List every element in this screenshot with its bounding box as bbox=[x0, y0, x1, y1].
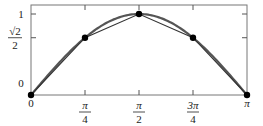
x-tick-label-numerator: π bbox=[82, 99, 88, 111]
x-tick-label: 0 bbox=[28, 97, 34, 109]
series-line-chord bbox=[31, 14, 247, 95]
y-tick-label: 0 bbox=[18, 77, 24, 89]
markers bbox=[28, 11, 250, 98]
x-tick-label-numerator: π bbox=[136, 99, 142, 111]
x-tick-label-numerator: 3π bbox=[186, 99, 199, 111]
x-tick-label: π bbox=[244, 97, 250, 109]
y-tick-label-denominator: 2 bbox=[12, 39, 18, 51]
y-tick-label: 1 bbox=[18, 8, 24, 20]
series-line-sine-curve bbox=[31, 14, 247, 95]
plot-border bbox=[31, 5, 247, 95]
series bbox=[31, 14, 247, 95]
tick-marks bbox=[31, 5, 247, 95]
chart: 0π4π23π4π0√221 bbox=[0, 0, 263, 126]
data-point bbox=[136, 11, 142, 17]
data-point bbox=[190, 35, 196, 41]
x-tick-label-denominator: 4 bbox=[82, 113, 88, 125]
x-tick-label-denominator: 4 bbox=[190, 113, 196, 125]
tick-labels: 0π4π23π4π0√221 bbox=[8, 8, 250, 125]
x-tick-label-denominator: 2 bbox=[136, 113, 142, 125]
data-point bbox=[82, 35, 88, 41]
plot-frame bbox=[31, 5, 247, 95]
y-tick-label-numerator: √2 bbox=[9, 25, 21, 37]
